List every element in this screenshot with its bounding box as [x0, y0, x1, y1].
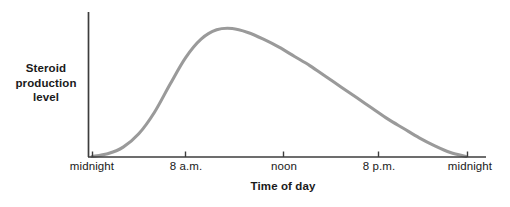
x-tick-label-noon: noon: [271, 160, 297, 172]
x-tick-label-midnight-start: midnight: [70, 160, 114, 172]
x-tick-label-8am: 8 a.m.: [170, 160, 203, 172]
y-axis-label-line-1: Steroid: [10, 61, 82, 76]
x-axis-label: Time of day: [223, 180, 343, 192]
y-axis-label: Steroid production level: [10, 61, 82, 105]
y-axis-label-line-3: level: [10, 90, 82, 105]
x-tick-label-midnight-end: midnight: [448, 160, 492, 172]
steroid-curve: [92, 28, 466, 156]
x-tick-label-8pm: 8 p.m.: [363, 160, 396, 172]
steroid-production-chart: Steroid production level midnight 8 a.m.…: [0, 0, 510, 207]
y-axis-label-line-2: production: [10, 76, 82, 91]
